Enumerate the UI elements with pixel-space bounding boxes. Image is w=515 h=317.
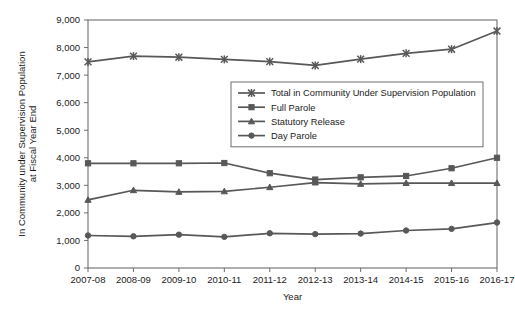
y-axis-tick-label: 2,000	[56, 207, 80, 218]
data-point-marker	[449, 166, 454, 171]
data-point-marker	[85, 161, 90, 166]
data-point-marker	[358, 175, 363, 180]
legend-item-label: Statutory Release	[271, 117, 345, 127]
data-point-marker	[494, 220, 499, 225]
y-axis-tick-label: 8,000	[56, 42, 80, 53]
x-axis-tick-label: 2015-16	[434, 274, 469, 285]
data-point-marker	[249, 133, 254, 138]
x-axis-tick-label: 2016-17	[480, 274, 515, 285]
data-point-marker	[176, 232, 181, 237]
series-full-parole	[85, 155, 499, 182]
x-axis-title: Year	[283, 291, 302, 302]
data-point-marker	[131, 161, 136, 166]
data-point-marker	[494, 27, 501, 35]
data-point-marker	[131, 234, 136, 239]
series-line	[88, 183, 497, 200]
data-point-marker	[249, 105, 254, 110]
y-axis-tick-label: 6,000	[56, 97, 80, 108]
data-point-marker	[494, 155, 499, 160]
data-point-marker	[222, 234, 227, 239]
series-day-parole	[85, 220, 499, 240]
x-axis-tick-group: 2007-082008-092009-102010-112011-122012-…	[71, 268, 515, 285]
legend-item[interactable]: Total in Community Under Supervision Pop…	[238, 88, 476, 98]
x-axis-tick-label: 2011-12	[253, 274, 287, 285]
y-axis-tick-label: 1,000	[56, 235, 80, 246]
legend-item-label: Total in Community Under Supervision Pop…	[271, 88, 476, 98]
x-axis-tick-label: 2010-11	[207, 274, 241, 285]
data-point-marker	[176, 161, 181, 166]
data-point-marker	[403, 228, 408, 233]
x-axis-tick-label: 2007-08	[71, 274, 106, 285]
y-axis-tick-label: 5,000	[56, 125, 80, 136]
series-line	[88, 31, 497, 65]
series-line	[88, 158, 497, 180]
data-point-marker	[267, 231, 272, 236]
x-axis-tick-label: 2008-09	[116, 274, 151, 285]
y-axis-tick-label: 0	[75, 262, 80, 273]
series-statutory-release	[85, 179, 500, 202]
data-point-marker	[222, 160, 227, 165]
y-axis-title-line-1: In Community under Supervision Populatio…	[16, 51, 27, 236]
series-total-in-community-under-supervision-population	[85, 27, 501, 69]
x-axis-tick-label: 2009-10	[161, 274, 196, 285]
chart-canvas: 01,0002,0003,0004,0005,0006,0007,0008,00…	[0, 0, 515, 317]
chart-legend: Total in Community Under Supervision Pop…	[231, 82, 483, 147]
y-axis-tick-group: 01,0002,0003,0004,0005,0006,0007,0008,00…	[56, 14, 88, 273]
x-axis-tick-label: 2012-13	[298, 274, 333, 285]
y-axis-tick-label: 4,000	[56, 152, 80, 163]
data-point-marker	[404, 173, 409, 178]
x-axis-tick-label: 2014-15	[389, 274, 424, 285]
line-chart-figure: 01,0002,0003,0004,0005,0006,0007,0008,00…	[0, 0, 515, 317]
legend-item-label: Day Parole	[271, 131, 317, 141]
y-axis-tick-label: 3,000	[56, 180, 80, 191]
data-point-marker	[267, 171, 272, 176]
y-axis-tick-label: 7,000	[56, 70, 80, 81]
y-axis-tick-label: 9,000	[56, 14, 80, 25]
data-point-marker	[358, 231, 363, 236]
data-point-marker	[85, 233, 90, 238]
series-line	[88, 223, 497, 237]
data-point-marker	[313, 231, 318, 236]
y-axis-title-line-2: at Fiscal Year End	[27, 106, 38, 183]
data-point-marker	[449, 226, 454, 231]
x-axis-tick-label: 2013-14	[343, 274, 378, 285]
legend-item-label: Full Parole	[271, 103, 315, 113]
